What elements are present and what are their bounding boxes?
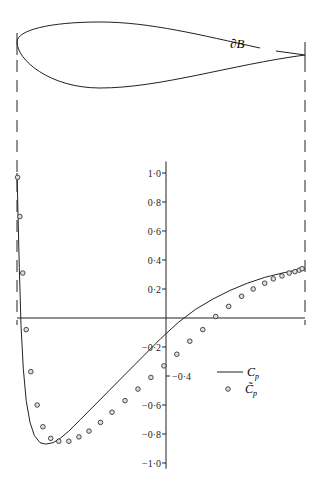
cp-line	[17, 173, 305, 444]
cp-tilde-point	[162, 364, 167, 369]
legend-label-cp-tilde-subscript: p	[252, 389, 257, 398]
legend-label-cp: Cp	[247, 365, 259, 381]
cp-tilde-point	[24, 327, 29, 332]
cp-tilde-point	[200, 327, 205, 332]
cp-tilde-point	[239, 294, 244, 299]
cp-tilde-point	[175, 352, 180, 357]
airfoil-upper-trailing	[276, 51, 305, 55]
cp-tilde-point	[48, 436, 53, 441]
airfoil-lower-surface	[17, 42, 305, 88]
cp-tilde-point	[20, 271, 25, 276]
cp-tilde-point	[110, 410, 115, 415]
airfoil-profile	[17, 22, 305, 88]
chord-guide-lines	[17, 60, 305, 325]
y-tick-label: −0·6	[142, 400, 161, 411]
legend-label-cp-subscript: p	[254, 372, 259, 381]
cp-tilde-point	[213, 314, 218, 319]
cp-tilde-point	[18, 214, 23, 219]
cp-tilde-point	[15, 175, 20, 180]
cp-tilde-point	[262, 281, 267, 286]
cp-tilde-point	[280, 274, 285, 279]
legend-marker-swatch	[226, 387, 231, 392]
cp-tilde-point	[35, 403, 40, 408]
y-tick-label: 1·0	[148, 168, 161, 179]
y-tick-label: −1·0	[142, 458, 161, 469]
y-tick-label: 0·6	[148, 226, 161, 237]
cp-tilde-point	[77, 435, 82, 440]
cp-tilde-point	[226, 304, 231, 309]
legend-label-cp-tilde: C̃p	[245, 382, 257, 398]
y-tick-label: 0·4	[148, 255, 161, 266]
cp-tilde-point	[98, 420, 103, 425]
airfoil-upper-surface	[17, 22, 260, 48]
cp-tilde-point	[87, 429, 92, 434]
y-tick-label: −0·2	[142, 342, 161, 353]
y-tick-label: 0·2	[148, 284, 161, 295]
cp-tilde-point	[56, 439, 61, 444]
cp-tilde-point	[67, 439, 72, 444]
cp-tilde-point	[136, 387, 141, 392]
cp-tilde-point	[293, 269, 298, 274]
y-tick-label: 0·8	[148, 197, 161, 208]
cp-tilde-point	[188, 339, 193, 344]
legend: CpC̃p	[217, 365, 259, 398]
cp-tilde-point	[41, 424, 46, 429]
cp-tilde-point	[251, 287, 256, 292]
cp-tilde-point	[300, 266, 305, 271]
cp-tilde-point	[29, 369, 34, 374]
cp-tilde-point	[287, 271, 292, 276]
pressure-coefficient-chart: 1·00·80·60·40·2−0·2−0·4−0·6−0·8−1·0 CpC̃…	[0, 0, 324, 485]
cp-line-series	[17, 173, 305, 444]
y-tick-label: −0·8	[142, 429, 161, 440]
cp-tilde-point	[271, 277, 276, 282]
y-tick-label: −0·4	[172, 371, 191, 382]
cp-tilde-point	[123, 398, 128, 403]
cp-tilde-point	[149, 375, 154, 380]
axes	[17, 161, 305, 468]
boundary-label: ∂B	[230, 36, 244, 51]
